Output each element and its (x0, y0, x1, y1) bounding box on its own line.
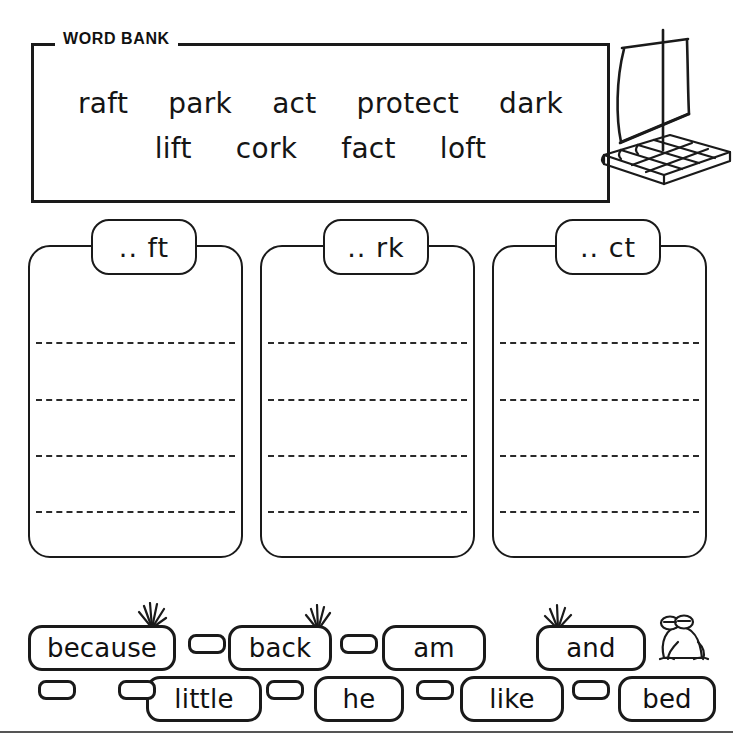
page-bottom-rule (0, 731, 733, 733)
word-bank-word: protect (357, 87, 459, 120)
word-bank-word: cork (236, 132, 297, 165)
sight-word-stones: because back am and little he like bed (0, 600, 733, 720)
sight-word-stone[interactable]: like (460, 676, 564, 722)
word-bank-title: WORD BANK (55, 30, 178, 48)
word-bank-row-1: raft park act protect dark (34, 87, 607, 120)
writing-line (268, 511, 467, 513)
word-bank-word: loft (440, 132, 486, 165)
word-bank-word: act (272, 87, 316, 120)
writing-line (36, 511, 235, 513)
word-bank-word: fact (341, 132, 396, 165)
sort-box-ft[interactable] (28, 245, 243, 558)
sight-word-stone[interactable]: back (228, 625, 332, 671)
sort-box-label-ft: .. ft (91, 219, 197, 275)
word-bank-word: park (168, 87, 232, 120)
writing-line (268, 455, 467, 457)
writing-line (36, 342, 235, 344)
sight-word-stone[interactable]: because (28, 625, 176, 671)
sight-word-stone[interactable]: little (146, 676, 262, 722)
blank-stone[interactable] (572, 680, 610, 700)
sight-word-stone[interactable]: bed (618, 676, 716, 722)
writing-lines (500, 247, 699, 556)
sort-box-label-rk: .. rk (323, 219, 429, 275)
word-bank-row-2: lift cork fact loft (34, 132, 607, 165)
word-sort-boxes: .. ft .. rk .. ct (28, 245, 708, 560)
word-bank-word: lift (155, 132, 192, 165)
blank-stone[interactable] (416, 680, 454, 700)
blank-stone[interactable] (118, 680, 156, 700)
blank-stone[interactable] (266, 680, 304, 700)
writing-lines (268, 247, 467, 556)
writing-line (268, 342, 467, 344)
word-bank-word-list: raft park act protect dark lift cork fac… (34, 46, 607, 200)
sort-box-label-ct: .. ct (555, 219, 661, 275)
sight-word-stone[interactable]: and (536, 625, 646, 671)
writing-line (500, 511, 699, 513)
blank-stone[interactable] (188, 634, 226, 654)
writing-line (500, 455, 699, 457)
blank-stone[interactable] (340, 634, 378, 654)
worksheet-page: raft park act protect dark lift cork fac… (0, 0, 733, 741)
word-bank-word: dark (499, 87, 563, 120)
word-bank-panel: raft park act protect dark lift cork fac… (31, 43, 610, 203)
writing-line (268, 399, 467, 401)
writing-lines (36, 247, 235, 556)
writing-line (36, 455, 235, 457)
writing-line (36, 399, 235, 401)
writing-line (500, 342, 699, 344)
writing-line (500, 399, 699, 401)
sight-word-stone[interactable]: am (382, 625, 486, 671)
raft-illustration (596, 22, 733, 187)
sort-box-ct[interactable] (492, 245, 707, 558)
blank-stone[interactable] (38, 680, 76, 700)
word-bank-word: raft (78, 87, 128, 120)
frog-illustration (648, 612, 712, 664)
sort-box-rk[interactable] (260, 245, 475, 558)
sight-word-stone[interactable]: he (314, 676, 404, 722)
